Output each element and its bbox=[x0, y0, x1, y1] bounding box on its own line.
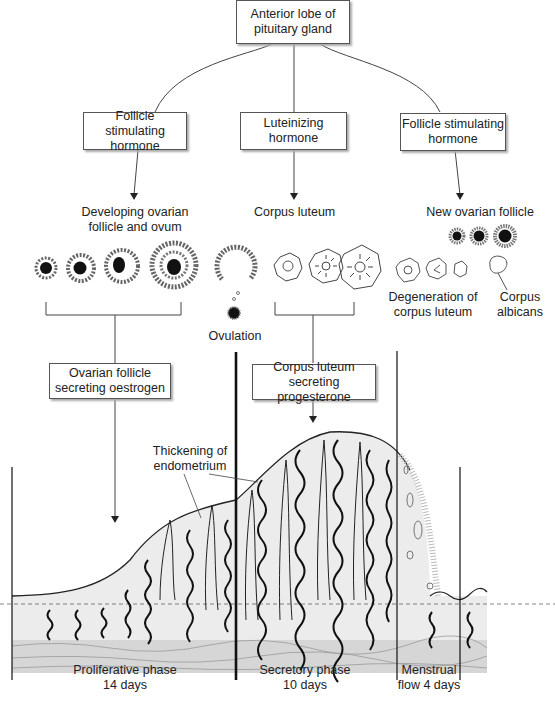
hormone-label-1: Follicle stimulating bbox=[402, 117, 504, 132]
hormone-label-2: hormone bbox=[428, 132, 477, 147]
arrowheads bbox=[130, 193, 464, 200]
oestrogen-box: Ovarian follicle secreting oestrogen bbox=[49, 363, 171, 399]
ovulation-label: Ovulation bbox=[200, 329, 270, 344]
hormone-box-fsh-right: Follicle stimulating hormone bbox=[400, 113, 506, 151]
pituitary-label-2: pituitary gland bbox=[254, 22, 332, 37]
hormone-box-lh: Luteinizing hormone bbox=[240, 112, 347, 150]
label-line: Developing ovarian bbox=[80, 205, 190, 220]
label-line: follicle and ovum bbox=[80, 220, 190, 235]
hormone-label-1: Follicle stimulating bbox=[84, 109, 186, 139]
corpus-luteum-label: Corpus luteum bbox=[254, 205, 334, 220]
secretion-label-1: Ovarian follicle bbox=[69, 366, 151, 381]
phase-name: Proliferative phase bbox=[70, 663, 180, 678]
phase-proliferative: Proliferative phase 14 days bbox=[70, 663, 180, 693]
secretion-label-2: secreting oestrogen bbox=[55, 381, 165, 396]
secretion-label-2: secreting progesterone bbox=[253, 375, 375, 405]
endometrium bbox=[0, 432, 555, 673]
developing-follicle-label: Developing ovarian follicle and ovum bbox=[80, 205, 190, 235]
phase-duration: flow 4 days bbox=[396, 678, 462, 693]
pituitary-box: Anterior lobe of pituitary gland bbox=[236, 0, 350, 44]
phase-name: Menstrual bbox=[396, 663, 462, 678]
label-line: Corpus bbox=[490, 290, 550, 305]
label-line: albicans bbox=[490, 305, 550, 320]
menstrual-cycle-diagram bbox=[0, 0, 555, 703]
label-line: Thickening of bbox=[150, 444, 230, 459]
corpus-luteum-shapes bbox=[274, 245, 381, 289]
hormone-box-fsh-left: Follicle stimulating hormone bbox=[83, 112, 187, 150]
phase-name: Secretory phase bbox=[250, 663, 360, 678]
ovulating-follicle bbox=[217, 247, 255, 319]
degeneration-label: Degeneration of corpus luteum bbox=[388, 290, 478, 320]
secretion-label-1: Corpus luteum bbox=[273, 360, 354, 375]
new-follicles bbox=[450, 226, 515, 246]
label-line: endometrium bbox=[150, 459, 230, 474]
hormone-label-2: hormone bbox=[269, 131, 318, 146]
degenerating-corpus-luteum bbox=[396, 256, 507, 290]
phase-duration: 14 days bbox=[70, 678, 180, 693]
progesterone-box: Corpus luteum secreting progesterone bbox=[252, 364, 376, 400]
label-line: Degeneration of bbox=[388, 290, 478, 305]
thickening-label: Thickening of endometrium bbox=[150, 444, 230, 474]
developing-follicles bbox=[36, 243, 196, 287]
albicans-label: Corpus albicans bbox=[490, 290, 550, 320]
label-line: corpus luteum bbox=[388, 305, 478, 320]
phase-menstrual: Menstrual flow 4 days bbox=[396, 663, 462, 693]
phase-duration: 10 days bbox=[250, 678, 360, 693]
new-follicle-label: New ovarian follicle bbox=[420, 205, 540, 220]
hormone-label-2: hormone bbox=[110, 139, 159, 154]
phase-secretory: Secretory phase 10 days bbox=[250, 663, 360, 693]
pituitary-label-1: Anterior lobe of bbox=[251, 7, 336, 22]
hormone-label-1: Luteinizing bbox=[264, 116, 324, 131]
